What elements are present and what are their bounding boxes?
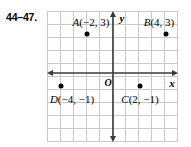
points-layer: O y x A(−2, 3) B(4, 3) C(2, −1) D(−4, −1… [47,11,178,142]
point-label-a: A(−2, 3) [73,16,110,28]
point-marker-b [164,32,169,37]
point-letter-d: D [50,93,58,105]
point-marker-d [59,84,64,89]
point-coords-c: (2, −1) [129,93,159,105]
point-coords-b: (4, 3) [150,16,174,28]
graph-area: O y x A(−2, 3) B(4, 3) C(2, −1) D(−4, −1… [47,11,178,142]
point-label-c: C(2, −1) [121,93,158,105]
point-coords-d: (−4, −1) [58,93,94,105]
point-label-b: B(4, 3) [144,16,175,28]
y-axis-label: y [120,12,125,24]
coordinate-plane-figure: 44–47. [0,0,191,147]
problem-number-label: 44–47. [6,11,37,23]
point-letter-b: B [144,16,151,28]
point-letter-a: A [73,16,80,28]
origin-label: O [104,77,111,88]
point-coords-a: (−2, 3) [79,16,109,28]
point-marker-a [85,32,90,37]
point-marker-c [138,84,143,89]
x-axis-label: x [169,77,175,89]
point-label-d: D(−4, −1) [50,93,94,105]
